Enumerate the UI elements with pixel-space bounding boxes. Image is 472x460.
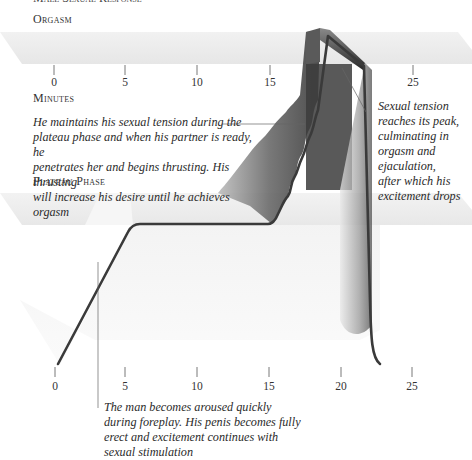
arousal-note: The man becomes aroused quickly during f… [104,400,304,460]
bottom-tick-5: 5 [122,380,128,392]
plateau-note-line: will increase his desire until he achiev… [33,190,258,220]
plateau-phase-label: Plateau Phase [33,174,105,189]
plateau-note: He maintains his sexual tension during t… [33,115,258,220]
plateau-note-line: plateau phase and when his partner is re… [33,130,258,160]
peak-note: Sexual tension reaches its peak, culmina… [378,99,472,204]
top-tick-15: 15 [264,76,276,88]
peak-note-line: reaches its peak, [378,114,472,129]
bottom-axis [55,367,412,377]
bottom-tick-10: 10 [191,380,203,392]
orgasm-label: Orgasm [33,12,72,27]
arousal-note-line: during foreplay. His penis becomes fully [104,415,304,430]
plateau-note-line: He maintains his sexual tension during t… [33,115,258,130]
orgasm-band [0,32,472,64]
peak-note-line: orgasm and [378,144,472,159]
minutes-label: Minutes [33,91,74,106]
peak-note-line: Sexual tension [378,99,472,114]
bottom-tick-15: 15 [263,380,275,392]
bottom-tick-25: 25 [406,380,418,392]
top-tick-5: 5 [122,76,128,88]
peak-note-line: culminating in [378,129,472,144]
peak-note-line: excitement drops [378,189,472,204]
top-tick-25: 25 [407,76,419,88]
peak-note-line: ejaculation, [378,159,472,174]
peak-note-line: after which his [378,174,472,189]
bottom-tick-20: 20 [335,380,347,392]
top-tick-0: 0 [51,76,57,88]
arousal-note-line: sexual stimulation [104,445,304,460]
top-tick-10: 10 [191,76,203,88]
bottom-tick-0: 0 [52,380,58,392]
arousal-note-line: erect and excitement continues with [104,430,304,445]
arousal-note-line: The man becomes aroused quickly [104,400,304,415]
